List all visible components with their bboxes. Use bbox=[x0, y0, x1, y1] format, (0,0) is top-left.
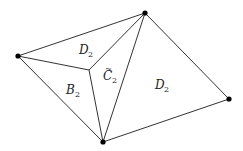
svg-text:2: 2 bbox=[88, 50, 93, 59]
region-label-d2: D2 bbox=[154, 78, 169, 94]
edge-right-bottom bbox=[103, 99, 229, 142]
triangulated-quadrilateral-diagram: D2C2~B2D2 bbox=[0, 0, 243, 151]
svg-text:2: 2 bbox=[75, 90, 80, 99]
region-label-b2: B2 bbox=[65, 83, 80, 99]
vertex-bottom bbox=[100, 139, 105, 144]
vertex-right bbox=[226, 96, 231, 101]
edge-inner-bottom bbox=[89, 70, 103, 142]
vertex-left bbox=[15, 53, 20, 58]
region-label-d2: D2 bbox=[78, 43, 93, 59]
svg-text:B: B bbox=[65, 83, 75, 97]
svg-text:2: 2 bbox=[164, 85, 169, 94]
region-label-c2-tilde: C2~ bbox=[103, 65, 117, 85]
edge-left-inner bbox=[18, 56, 89, 70]
svg-text:~: ~ bbox=[105, 65, 112, 74]
svg-text:2: 2 bbox=[112, 76, 117, 85]
edge-inner-top bbox=[89, 13, 145, 70]
vertex-top bbox=[142, 10, 147, 15]
